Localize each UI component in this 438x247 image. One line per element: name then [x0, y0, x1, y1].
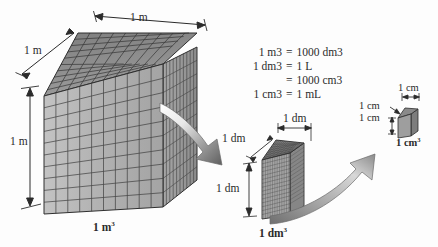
cube-medium-volume-base: 1 dm	[259, 227, 284, 239]
equation-list: 1 m3=1000 dm31 dm3=1 L=1000 cm31 cm3=1 m…	[236, 46, 343, 102]
equation-rhs: 1 mL	[297, 88, 322, 100]
cube-medium-depth-label: 1 dm	[222, 133, 245, 145]
equation-rhs: 1000 cm3	[297, 74, 343, 86]
cube-large-volume-exponent: 3	[111, 220, 115, 228]
equation-rhs: 1 L	[297, 60, 313, 72]
equation-lhs: 1 m3	[236, 46, 282, 58]
cube-medium-width-label: 1 dm	[283, 113, 306, 125]
cube-small-front-face	[398, 114, 411, 138]
cube-medium-volume-exponent: 3	[284, 226, 288, 234]
equation-rhs: 1000 dm3	[297, 46, 343, 58]
cube-medium-height-label: 1 dm	[216, 183, 239, 195]
cube-small-volume-base: 1 cm	[396, 137, 417, 148]
equation-equals-sign: =	[282, 46, 297, 58]
cube-large-volume-base: 1 m	[93, 221, 111, 233]
cube-large	[44, 33, 197, 214]
figure-canvas: 1 m 1 m 1 m 1 m3 1 dm 1 dm 1 dm 1 dm3 1 …	[0, 0, 438, 247]
cube-small	[398, 108, 418, 138]
equation-rhs-exponent: 3	[336, 74, 342, 86]
diagram-artwork	[0, 0, 438, 247]
equation-equals-sign: =	[282, 88, 297, 100]
cube-large-depth-label: 1 m	[24, 45, 42, 57]
equation-row: 1 m3=1000 dm3	[236, 46, 343, 60]
equation-equals-sign: =	[282, 60, 297, 72]
cube-large-height-label: 1 m	[10, 136, 28, 148]
cube-small-volume-label: 1 cm3	[396, 138, 421, 149]
equation-row: =1000 cm3	[236, 74, 343, 88]
equation-lhs: 1 cm3	[236, 88, 282, 100]
cube-small-height-label: 1 cm	[359, 113, 380, 124]
equation-rhs-exponent: 3	[337, 46, 343, 58]
cube-small-width-label: 1 cm	[398, 83, 419, 94]
cube-large-width-label: 1 m	[130, 12, 148, 24]
cube-small-depth-label: 1 cm	[359, 101, 380, 112]
cube-medium-volume-label: 1 dm3	[259, 228, 287, 240]
equation-row: 1 dm3=1 L	[236, 60, 343, 74]
equation-equals-sign: =	[282, 74, 297, 86]
cube-large-volume-label: 1 m3	[93, 222, 115, 234]
cube-medium	[262, 140, 304, 219]
equation-lhs: 1 dm3	[236, 60, 282, 72]
equation-row: 1 cm3=1 mL	[236, 88, 343, 102]
cube-small-volume-exponent: 3	[417, 136, 420, 143]
